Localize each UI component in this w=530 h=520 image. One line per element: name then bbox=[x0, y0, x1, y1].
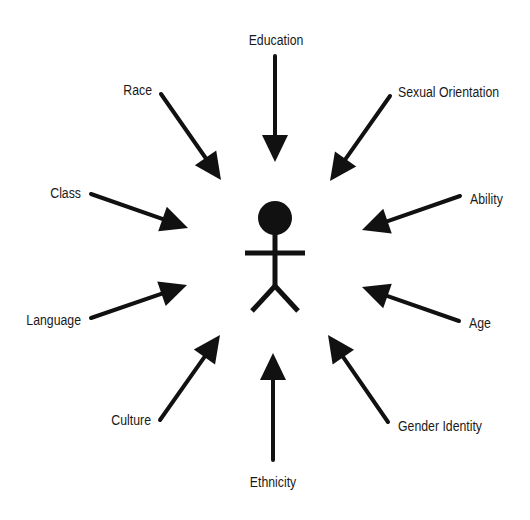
label-age: Age bbox=[469, 315, 491, 331]
arrowhead-icon bbox=[194, 335, 220, 365]
label-language: Language bbox=[26, 312, 81, 328]
arrow-culture bbox=[160, 335, 220, 420]
person-right-leg bbox=[275, 286, 298, 311]
label-ethnicity: Ethnicity bbox=[250, 474, 297, 490]
label-culture: Culture bbox=[111, 412, 151, 428]
label-education: Education bbox=[249, 32, 304, 48]
arrow-shaft bbox=[386, 196, 460, 222]
arrow-ability bbox=[362, 196, 460, 233]
arrow-sexual-orientation bbox=[330, 96, 390, 181]
arrowhead-icon bbox=[328, 335, 354, 365]
arrow-race bbox=[161, 94, 221, 180]
stick-figure-person-icon bbox=[245, 201, 305, 311]
arrow-ethnicity bbox=[260, 353, 286, 460]
identity-influences-diagram: EducationSexual OrientationAbilityAgeGen… bbox=[0, 0, 530, 520]
arrowhead-icon bbox=[262, 135, 288, 162]
label-ability: Ability bbox=[470, 191, 503, 207]
arrow-shaft bbox=[161, 94, 207, 159]
arrow-shaft bbox=[344, 96, 390, 161]
arrowhead-icon bbox=[157, 281, 187, 306]
arrowhead-icon bbox=[330, 151, 356, 181]
label-gender-identity: Gender Identity bbox=[398, 418, 482, 434]
person-left-leg bbox=[252, 286, 275, 311]
arrow-class bbox=[91, 194, 188, 231]
arrow-shaft bbox=[160, 355, 206, 420]
arrow-gender-identity bbox=[328, 335, 388, 422]
arrow-education bbox=[262, 56, 288, 162]
person-head bbox=[258, 201, 292, 235]
arrowhead-icon bbox=[362, 284, 392, 309]
arrow-shaft bbox=[342, 356, 388, 422]
labels-group: EducationSexual OrientationAbilityAgeGen… bbox=[26, 32, 503, 490]
arrowhead-icon bbox=[362, 209, 392, 234]
arrowhead-icon bbox=[195, 150, 221, 180]
arrow-shaft bbox=[91, 293, 163, 318]
label-sexual-orientation: Sexual Orientation bbox=[398, 84, 499, 100]
arrow-language bbox=[91, 281, 187, 318]
arrowhead-icon bbox=[158, 207, 188, 232]
arrowhead-icon bbox=[260, 353, 286, 380]
arrow-age bbox=[362, 284, 459, 321]
label-race: Race bbox=[123, 82, 152, 98]
arrow-shaft bbox=[386, 295, 459, 321]
arrow-shaft bbox=[91, 194, 164, 220]
label-class: Class bbox=[50, 185, 81, 201]
